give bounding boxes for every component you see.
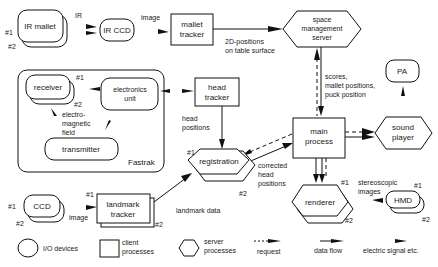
system-architecture-diagram: IR mallet #1 #2 IR IR CCD image mallet t… — [0, 0, 438, 267]
edge-label-corrected-1: corrected — [258, 162, 287, 169]
legend-client-label-2: processes — [122, 248, 154, 256]
edge-label-landmark-data: landmark data — [176, 207, 220, 214]
edge-label-em-2: magnetic — [62, 120, 91, 128]
pa-label: PA — [397, 67, 408, 76]
node-space-management-server: space management server — [283, 11, 361, 47]
edge-label-2d-2: on table surface — [225, 47, 275, 54]
ir-ccd-label: IR CCD — [103, 26, 131, 35]
main-process-label-1: main — [310, 127, 327, 136]
registration-label: registration — [199, 157, 239, 166]
head-tracker-label-2: tracker — [205, 93, 230, 102]
legend-request: request — [254, 239, 281, 256]
node-ir-ccd: IR CCD — [100, 19, 134, 41]
space-mgmt-label-3: server — [312, 34, 332, 41]
space-mgmt-label-2: management — [302, 25, 343, 33]
edge-label-em-1: electro- — [62, 111, 86, 118]
ccd-tag-1: #1 — [8, 203, 16, 210]
edge-label-corrected-2: head — [258, 171, 274, 178]
edge-main-sound — [345, 128, 375, 140]
edge-label-2d-1: 2D-positions — [225, 38, 264, 46]
edge-label-image-bottom: image — [69, 214, 88, 222]
edge-2d-positions: 2D-positions on table surface — [213, 26, 283, 54]
edge-ir: IR — [75, 12, 97, 35]
edge-electronics-head-tracker — [160, 89, 194, 93]
legend-server-processes: server processes — [179, 238, 236, 256]
main-process-label-2: process — [305, 137, 333, 146]
ir-mallet-tag-2: #2 — [8, 43, 16, 50]
electronics-label-2: unit — [124, 95, 135, 102]
legend-client-processes: client processes — [100, 239, 154, 257]
legend: I/O devices client processes server proc… — [18, 238, 419, 257]
receiver-tag-2: #2 — [74, 101, 82, 108]
node-sound-player: sound player — [375, 117, 432, 149]
legend-io-devices: I/O devices — [18, 239, 79, 257]
mallet-tracker-label-2: tracker — [180, 30, 205, 39]
ir-mallet-tag-1: #1 — [5, 29, 13, 36]
node-renderer: renderer #1 #2 — [292, 179, 353, 224]
fastrak-label: Fastrak — [128, 158, 156, 167]
sound-player-label-1: sound — [392, 123, 414, 132]
electronics-label-1: electronics — [113, 86, 147, 93]
legend-dataflow-label: data flow — [314, 247, 343, 254]
edge-label-scores-3: puck position — [325, 91, 366, 99]
edge-scores: scores, mallet positions, puck position — [314, 47, 375, 116]
node-transmitter: transmitter — [45, 138, 118, 160]
landmark-tag-1: #1 — [86, 191, 94, 198]
node-electronics-unit: electronics unit — [101, 78, 158, 110]
landmark-tracker-label-1: landmark — [107, 200, 141, 209]
landmark-tracker-label-2: tracker — [111, 210, 136, 219]
edge-label-stereo-1: stereoscopic — [358, 179, 398, 187]
mallet-tracker-label-1: mallet — [181, 20, 203, 29]
edge-main-renderer — [313, 158, 326, 183]
node-mallet-tracker: mallet tracker — [171, 14, 213, 45]
legend-server-label-1: server — [204, 238, 224, 245]
legend-server-label-2: processes — [204, 247, 236, 255]
renderer-tag-2: #2 — [345, 217, 353, 224]
transmitter-label: transmitter — [62, 145, 100, 154]
space-mgmt-label-1: space — [313, 16, 332, 24]
renderer-label: renderer — [305, 198, 336, 207]
node-head-tracker: head tracker — [195, 78, 239, 106]
ir-mallet-label: IR mallet — [24, 22, 56, 31]
node-ir-mallet: IR mallet #1 #2 — [5, 10, 67, 50]
edge-head-positions: head positions — [182, 106, 225, 149]
hmd-tag-1: #1 — [414, 182, 422, 189]
node-landmark-tracker: landmark tracker #1 #2 — [86, 191, 163, 228]
head-tracker-label-1: head — [208, 83, 226, 92]
legend-electric-label: electric signal etc. — [363, 247, 419, 255]
hmd-tag-2: #2 — [422, 216, 430, 223]
node-pa: PA — [386, 60, 419, 96]
edge-label-scores-1: scores, — [325, 73, 348, 80]
legend-client-label-1: client — [122, 239, 138, 246]
hmd-label: HMD — [394, 196, 412, 205]
renderer-tag-1: #1 — [341, 179, 349, 186]
edge-label-em-3: field — [62, 129, 75, 136]
legend-data-flow: data flow — [314, 239, 344, 254]
node-hmd: HMD #1 #2 — [386, 182, 430, 223]
legend-io-label: I/O devices — [43, 245, 79, 252]
receiver-tag-1: #1 — [76, 74, 84, 81]
edge-image-bottom: image — [69, 205, 97, 222]
receiver-label: receiver — [34, 83, 63, 92]
node-registration: registration #1 #2 — [187, 149, 255, 197]
edge-label-head-pos-2: positions — [182, 124, 210, 132]
edge-label-head-pos-1: head — [182, 115, 198, 122]
ccd-label: CCD — [33, 202, 51, 211]
edge-image-top: image — [141, 14, 169, 34]
edge-label-ir: IR — [75, 12, 82, 19]
sound-player-label-2: player — [392, 133, 414, 142]
node-ccd: CCD #1 #2 — [8, 195, 64, 227]
landmark-tag-2: #2 — [155, 221, 163, 228]
ccd-tag-2: #2 — [16, 220, 24, 227]
legend-request-label: request — [257, 248, 280, 256]
edge-label-image-top: image — [141, 14, 160, 22]
edge-label-stereo-2: images — [358, 188, 381, 196]
registration-tag-1: #1 — [187, 149, 195, 156]
edge-label-scores-2: mallet positions, — [325, 82, 375, 90]
edge-label-corrected-3: positions — [258, 180, 286, 188]
registration-tag-2: #2 — [239, 190, 247, 197]
node-main-process: main process — [293, 118, 345, 158]
legend-electric-signal: electric signal etc. — [363, 239, 419, 255]
